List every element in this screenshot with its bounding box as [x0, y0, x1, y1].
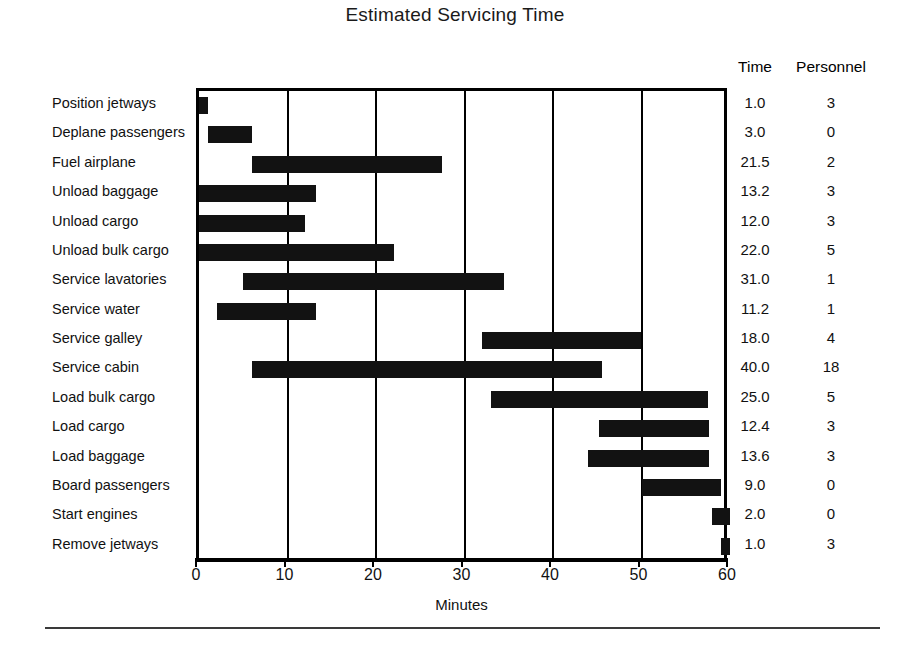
personnel-value: 3 — [783, 94, 879, 111]
gantt-bar[interactable] — [199, 244, 394, 261]
x-tick-label: 20 — [353, 566, 393, 584]
time-column-header: Time — [731, 58, 779, 76]
personnel-value: 5 — [783, 388, 879, 405]
gantt-row — [199, 150, 730, 179]
task-label: Load baggage — [0, 448, 186, 464]
gantt-row — [199, 473, 730, 502]
gantt-bar[interactable] — [252, 361, 602, 378]
task-label: Unload cargo — [0, 213, 186, 229]
personnel-column-header: Personnel — [783, 58, 879, 76]
time-value: 31.0 — [731, 270, 779, 287]
x-axis-title: Minutes — [196, 596, 727, 613]
task-label: Position jetways — [0, 95, 186, 111]
gantt-row — [199, 120, 730, 149]
time-value: 1.0 — [731, 94, 779, 111]
task-label: Service cabin — [0, 359, 186, 375]
x-tick-label: 0 — [176, 566, 216, 584]
gantt-row — [199, 238, 730, 267]
x-tick-label: 30 — [442, 566, 482, 584]
time-value: 1.0 — [731, 535, 779, 552]
time-value: 2.0 — [731, 505, 779, 522]
gantt-row — [199, 91, 730, 120]
task-label: Board passengers — [0, 477, 186, 493]
gantt-row — [199, 502, 730, 531]
personnel-value: 2 — [783, 153, 879, 170]
gantt-bar[interactable] — [721, 538, 730, 555]
gantt-bar[interactable] — [712, 508, 730, 525]
personnel-value: 3 — [783, 447, 879, 464]
task-label: Service lavatories — [0, 271, 186, 287]
personnel-value: 18 — [783, 358, 879, 375]
personnel-value: 3 — [783, 182, 879, 199]
gantt-row — [199, 385, 730, 414]
personnel-value: 0 — [783, 505, 879, 522]
plot-area — [196, 88, 727, 558]
gantt-bar[interactable] — [199, 97, 208, 114]
time-value: 22.0 — [731, 241, 779, 258]
personnel-value: 3 — [783, 417, 879, 434]
task-label: Service water — [0, 301, 186, 317]
page-title: Estimated Servicing Time — [0, 4, 910, 26]
time-value: 11.2 — [731, 300, 779, 317]
gantt-row — [199, 444, 730, 473]
gantt-row — [199, 414, 730, 443]
task-label: Load cargo — [0, 418, 186, 434]
time-value: 18.0 — [731, 329, 779, 346]
personnel-value: 1 — [783, 300, 879, 317]
time-value: 12.0 — [731, 212, 779, 229]
task-label: Unload bulk cargo — [0, 242, 186, 258]
gantt-bar[interactable] — [642, 479, 722, 496]
gantt-row — [199, 326, 730, 355]
task-label: Unload baggage — [0, 183, 186, 199]
gantt-bar[interactable] — [588, 450, 708, 467]
time-value: 25.0 — [731, 388, 779, 405]
gantt-bar[interactable] — [252, 156, 442, 173]
x-tick-label: 60 — [707, 566, 747, 584]
gantt-row — [199, 297, 730, 326]
gantt-chart: Estimated Servicing Time Time Personnel … — [0, 0, 910, 649]
personnel-value: 1 — [783, 270, 879, 287]
time-value: 3.0 — [731, 123, 779, 140]
gantt-row — [199, 179, 730, 208]
time-value: 9.0 — [731, 476, 779, 493]
gantt-bar[interactable] — [599, 420, 709, 437]
time-value: 13.6 — [731, 447, 779, 464]
personnel-value: 3 — [783, 535, 879, 552]
gantt-bar[interactable] — [482, 332, 641, 349]
x-tick-label: 50 — [619, 566, 659, 584]
time-value: 40.0 — [731, 358, 779, 375]
task-label: Remove jetways — [0, 536, 186, 552]
personnel-value: 3 — [783, 212, 879, 229]
personnel-value: 0 — [783, 476, 879, 493]
time-value: 13.2 — [731, 182, 779, 199]
gantt-row — [199, 267, 730, 296]
gantt-bar[interactable] — [208, 126, 252, 143]
gantt-bar[interactable] — [199, 215, 305, 232]
personnel-value: 5 — [783, 241, 879, 258]
personnel-value: 4 — [783, 329, 879, 346]
task-label: Load bulk cargo — [0, 389, 186, 405]
personnel-value: 0 — [783, 123, 879, 140]
gantt-bar[interactable] — [199, 185, 316, 202]
task-label: Start engines — [0, 506, 186, 522]
footer-divider — [45, 627, 880, 629]
gantt-row — [199, 209, 730, 238]
gantt-bar[interactable] — [217, 303, 316, 320]
x-tick-label: 10 — [265, 566, 305, 584]
task-label: Service galley — [0, 330, 186, 346]
task-label: Fuel airplane — [0, 154, 186, 170]
time-value: 12.4 — [731, 417, 779, 434]
gantt-bar[interactable] — [243, 273, 504, 290]
x-tick-label: 40 — [530, 566, 570, 584]
gantt-row — [199, 355, 730, 384]
gantt-bar[interactable] — [491, 391, 708, 408]
gantt-row — [199, 532, 730, 561]
time-value: 21.5 — [731, 153, 779, 170]
task-label: Deplane passengers — [0, 124, 186, 140]
